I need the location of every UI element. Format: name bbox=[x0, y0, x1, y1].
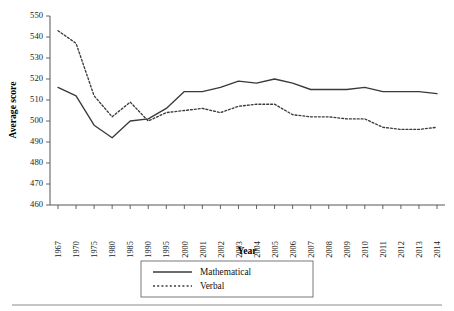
y-tick-label: 500 bbox=[30, 115, 43, 125]
y-tick-label: 520 bbox=[30, 73, 43, 83]
x-tick-label: 2013 bbox=[415, 241, 424, 258]
x-tick-label: 1985 bbox=[126, 241, 135, 258]
x-tick-label: 1975 bbox=[90, 241, 99, 258]
y-tick-label: 530 bbox=[30, 52, 43, 62]
chart-figure: Average score 46047048049050051052053054… bbox=[0, 0, 454, 311]
y-tick-label: 510 bbox=[30, 94, 43, 104]
y-tick-label: 460 bbox=[30, 199, 43, 209]
legend-label-verbal: Verbal bbox=[200, 281, 225, 291]
x-tick-label: 2006 bbox=[289, 241, 298, 258]
legend-label-mathematical: Mathematical bbox=[200, 267, 252, 277]
sat-scores-line-chart: Average score 46047048049050051052053054… bbox=[0, 0, 454, 311]
x-tick-label: 2009 bbox=[343, 241, 352, 258]
x-tick-label: 2002 bbox=[217, 241, 226, 258]
y-tick-label: 540 bbox=[30, 31, 43, 41]
x-tick-label: 2012 bbox=[397, 241, 406, 258]
y-axis-ticks: 460470480490500510520530540550 bbox=[30, 10, 50, 209]
x-tick-label: 2008 bbox=[325, 241, 334, 258]
x-tick-label: 1990 bbox=[144, 241, 153, 258]
x-tick-label: 2005 bbox=[271, 241, 280, 258]
series-line-mathematical bbox=[58, 79, 437, 138]
y-axis-title: Average score bbox=[7, 81, 18, 139]
x-tick-label: 1995 bbox=[162, 241, 171, 258]
y-tick-label: 480 bbox=[30, 157, 43, 167]
x-tick-label: 1970 bbox=[72, 241, 81, 258]
y-tick-label: 490 bbox=[30, 136, 43, 146]
x-tick-label: 1980 bbox=[108, 241, 117, 258]
x-tick-label: 2014 bbox=[433, 240, 442, 258]
x-tick-label: 2011 bbox=[379, 241, 388, 257]
x-tick-label: 1967 bbox=[54, 241, 63, 258]
chart-legend: Mathematical Verbal bbox=[141, 261, 313, 297]
x-axis-title: Year bbox=[237, 245, 257, 256]
y-tick-label: 550 bbox=[30, 10, 43, 20]
x-tick-label: 2007 bbox=[307, 241, 316, 258]
series-line-verbal bbox=[58, 31, 437, 130]
x-tick-label: 2001 bbox=[199, 241, 208, 258]
x-tick-label: 2000 bbox=[181, 241, 190, 258]
y-tick-label: 470 bbox=[30, 178, 43, 188]
x-tick-label: 2010 bbox=[361, 241, 370, 258]
